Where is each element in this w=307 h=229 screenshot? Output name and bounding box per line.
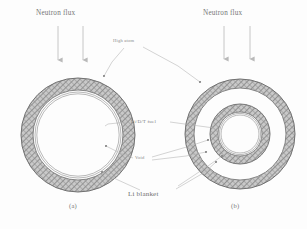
li-blanket-label: Li blanket	[128, 191, 159, 198]
neutron-flux-label-left: Neutron flux	[36, 10, 75, 17]
subfigure-label-a: (a)	[69, 203, 77, 210]
subfigure-label-b: (b)	[231, 203, 239, 210]
void-label: Void	[135, 156, 144, 161]
fuel-label: Li/D/T fuel	[131, 119, 156, 124]
neutron-flux-label-right: Neutron flux	[203, 10, 242, 17]
high-atom-label: High atom	[113, 39, 134, 44]
figure-canvas: Neutron flux Neutron flux High atom Li/D…	[0, 0, 307, 229]
